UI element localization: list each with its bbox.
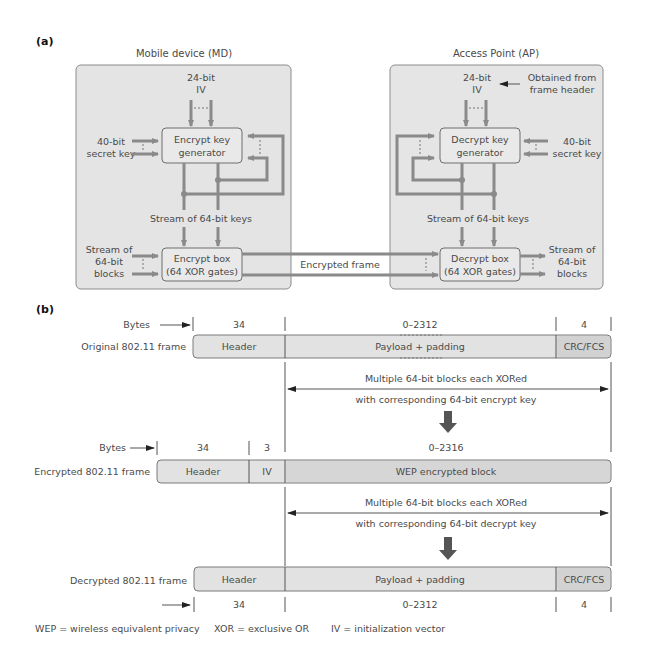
decrypt-box-label: Decrypt box (451, 253, 509, 264)
encrypt-box-label-2: (64 XOR gates) (166, 266, 238, 277)
md-secret-key-label-2: secret key (87, 148, 136, 159)
decrypted-crc-field: CRC/FCS (564, 574, 605, 585)
ap-title: Access Point (AP) (453, 48, 539, 59)
original-crc-bytes: 4 (581, 319, 587, 330)
ap-secret-key-label-2: secret key (553, 148, 602, 159)
ap-blocks-label-2: 64-bit (558, 256, 586, 267)
original-payload-field: Payload + padding (375, 341, 465, 352)
encrypt-note-line2: with corresponding 64-bit encrypt key (356, 394, 537, 405)
decrypt-note-line2: with corresponding 64-bit decrypt key (355, 518, 536, 529)
bytes-label-1: Bytes (123, 319, 150, 330)
md-key-stream-label: Stream of 64-bit keys (150, 213, 252, 224)
ap-iv-label-2: IV (472, 84, 482, 95)
decrypted-frame: Decrypted 802.11 frame Header Payload + … (70, 567, 611, 612)
encrypt-key-generator-label: Encrypt key (174, 134, 231, 145)
decrypt-box-label-2: (64 XOR gates) (444, 266, 516, 277)
decrypt-note-line1: Multiple 64-bit blocks each XORed (365, 497, 527, 508)
ap-blocks-label: Stream of (549, 244, 596, 255)
encrypted-frame-label: Encrypted frame (300, 259, 380, 270)
md-secret-key-label: 40-bit (97, 136, 125, 147)
original-header-bytes: 34 (233, 319, 245, 330)
iv-source-label: Obtained from (528, 72, 597, 83)
md-iv-label: 24-bit (187, 72, 215, 83)
decrypted-header-bytes: 34 (233, 599, 245, 610)
original-frame: Bytes 34 0–2312 4 Original 802.11 frame … (81, 317, 611, 358)
legend: WEP = wireless equivalent privacy XOR = … (35, 623, 445, 634)
legend-wep: WEP = wireless equivalent privacy (35, 623, 200, 634)
original-crc-field: CRC/FCS (564, 341, 605, 352)
ap-key-stream-label: Stream of 64-bit keys (427, 213, 529, 224)
part-a-label: (a) (36, 35, 53, 48)
decrypt-key-generator-label: Decrypt key (451, 134, 509, 145)
original-payload-bytes: 0–2312 (403, 319, 438, 330)
down-arrow-icon (439, 550, 457, 560)
wep-encrypted-block-field: WEP encrypted block (396, 466, 497, 477)
part-b-label: (b) (36, 303, 54, 316)
encrypted-frame: Bytes 34 3 0–2316 Encrypted 802.11 frame… (34, 441, 611, 483)
md-blocks-label-3: blocks (94, 268, 124, 279)
legend-xor: XOR = exclusive OR (214, 623, 310, 634)
legend-iv: IV = initialization vector (331, 623, 445, 634)
encrypted-header-bytes: 34 (197, 442, 209, 453)
decrypt-key-generator-label-2: generator (457, 147, 504, 158)
iv-source-label-2: frame header (530, 84, 595, 95)
encrypt-key-generator-label-2: generator (179, 147, 226, 158)
encrypted-block-bytes: 0–2316 (429, 442, 464, 453)
encrypted-iv-bytes: 3 (264, 442, 270, 453)
bytes-label-2: Bytes (99, 442, 126, 453)
md-blocks-label-2: 64-bit (95, 256, 123, 267)
access-point-panel: Access Point (AP) 24-bit IV Obtained fro… (390, 48, 603, 289)
encrypted-iv-field: IV (262, 466, 272, 477)
decrypted-payload-field: Payload + padding (375, 574, 465, 585)
ap-iv-label: 24-bit (463, 72, 491, 83)
encrypted-frame-label: Encrypted 802.11 frame (34, 466, 150, 477)
encrypted-header-field: Header (186, 466, 221, 477)
decrypted-payload-bytes: 0–2312 (403, 599, 438, 610)
decrypted-frame-label: Decrypted 802.11 frame (70, 575, 187, 586)
decrypted-crc-bytes: 4 (581, 599, 587, 610)
decrypted-header-field: Header (222, 574, 257, 585)
encrypt-box-label: Encrypt box (174, 253, 231, 264)
encrypt-note: Multiple 64-bit blocks each XORed with c… (285, 362, 611, 452)
encrypt-note-line1: Multiple 64-bit blocks each XORed (365, 373, 527, 384)
md-title: Mobile device (MD) (136, 48, 232, 59)
md-blocks-label: Stream of (86, 244, 133, 255)
ap-blocks-label-3: blocks (557, 268, 587, 279)
down-arrow-icon (439, 423, 457, 433)
decrypt-note: Multiple 64-bit blocks each XORed with c… (285, 487, 611, 566)
md-iv-label-2: IV (196, 84, 206, 95)
ap-secret-key-label: 40-bit (563, 136, 591, 147)
wep-diagram: (a) Mobile device (MD) 24-bit IV 40-bit … (0, 0, 647, 664)
original-frame-label: Original 802.11 frame (81, 341, 186, 352)
original-header-field: Header (222, 341, 257, 352)
